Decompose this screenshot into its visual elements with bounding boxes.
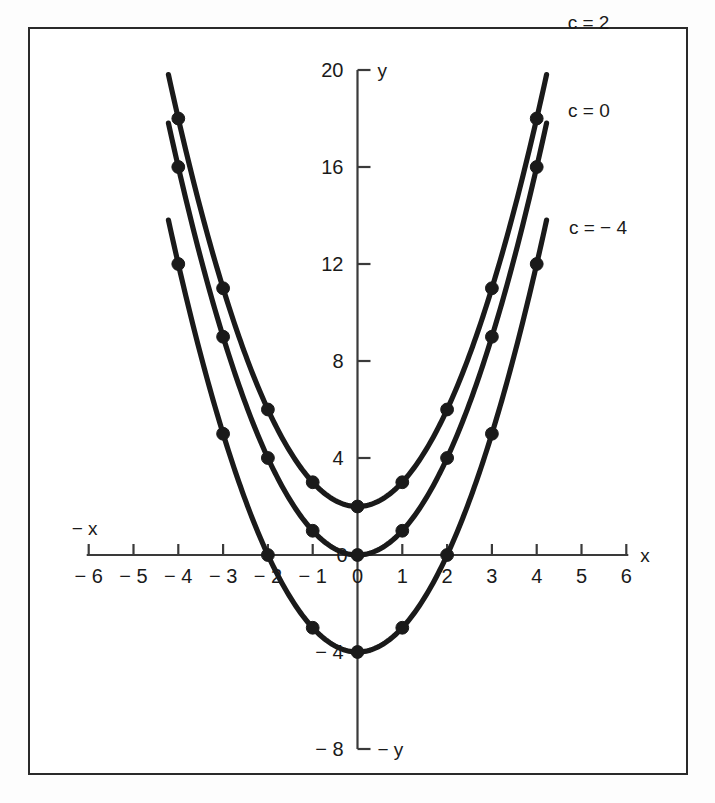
data-point <box>172 161 185 174</box>
data-point <box>172 258 185 271</box>
x-tick-label-3: 3 <box>486 565 497 587</box>
data-point <box>441 403 454 416</box>
parabola-chart: − 6− 5− 4− 3− 2− 10123456− 8− 4048121620… <box>0 0 715 803</box>
data-point <box>262 452 275 465</box>
x-tick-label--4: − 4 <box>164 565 192 587</box>
y-tick-label-8: 8 <box>332 350 343 372</box>
y-tick-label-4: 4 <box>332 447 343 469</box>
x-tick-label--1: − 1 <box>299 565 327 587</box>
y-axis-label: y <box>378 60 388 81</box>
data-point <box>306 621 319 634</box>
x-tick-label-1: 1 <box>397 565 408 587</box>
data-point <box>530 258 543 271</box>
data-point <box>530 161 543 174</box>
x-tick-label--6: − 6 <box>75 565 103 587</box>
data-point <box>396 621 409 634</box>
x-tick-label-6: 6 <box>621 565 632 587</box>
data-point <box>217 282 230 295</box>
y-tick-label--8: − 8 <box>315 738 343 760</box>
data-point <box>441 452 454 465</box>
data-point <box>172 112 185 125</box>
data-point <box>351 500 364 513</box>
y-tick-label-16: 16 <box>321 156 343 178</box>
y-axis-label-negative: − y <box>378 739 404 760</box>
data-point <box>217 330 230 343</box>
x-tick-label-5: 5 <box>576 565 587 587</box>
data-point <box>306 524 319 537</box>
data-point <box>262 549 275 562</box>
figure-container: − 6− 5− 4− 3− 2− 10123456− 8− 4048121620… <box>0 0 715 803</box>
data-point <box>396 476 409 489</box>
data-point <box>217 427 230 440</box>
curve-label-2: c = − 4 <box>569 217 628 238</box>
data-point <box>351 549 364 562</box>
data-point <box>351 646 364 659</box>
x-tick-label-0: 0 <box>352 565 363 587</box>
data-point <box>262 403 275 416</box>
x-tick-label--3: − 3 <box>209 565 237 587</box>
y-tick-label-12: 12 <box>321 253 343 275</box>
x-tick-label--5: − 5 <box>119 565 147 587</box>
x-axis-label-negative: − x <box>72 518 98 539</box>
data-point <box>486 282 499 295</box>
data-point <box>441 549 454 562</box>
curve-label-0: c = 2 <box>568 12 610 33</box>
data-point <box>530 112 543 125</box>
x-tick-label-4: 4 <box>531 565 542 587</box>
data-point <box>396 524 409 537</box>
y-tick-label-20: 20 <box>321 59 343 81</box>
data-point <box>486 427 499 440</box>
data-point <box>486 330 499 343</box>
curve-label-1: c = 0 <box>568 100 610 121</box>
data-point <box>306 476 319 489</box>
x-axis-label: x <box>640 545 650 566</box>
